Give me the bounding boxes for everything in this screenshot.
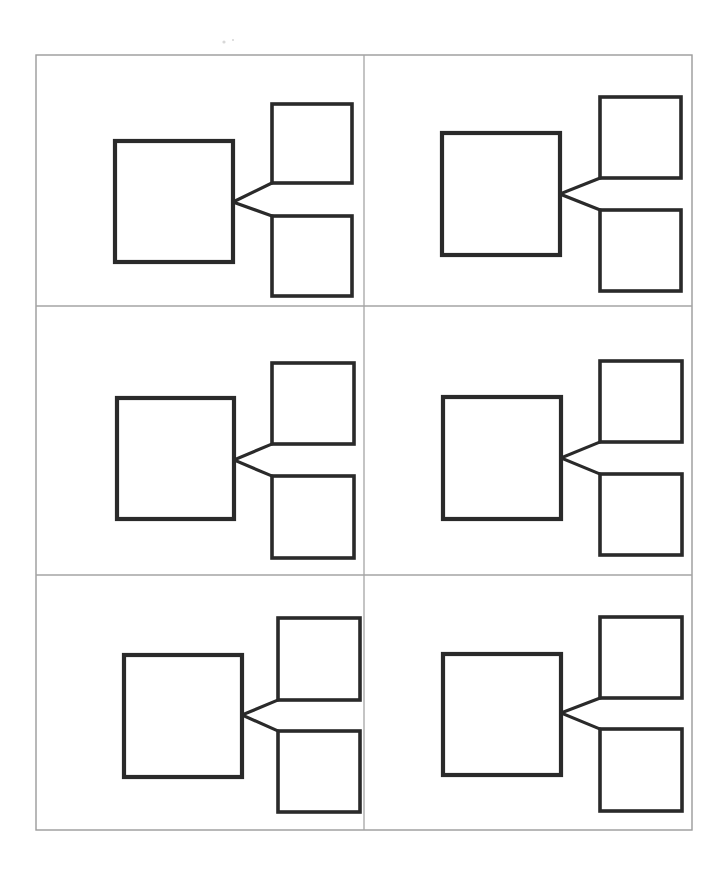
- scan-speck-2: [232, 39, 234, 41]
- cell-1-top-box: [272, 104, 352, 183]
- cell-6-top-box: [600, 617, 682, 698]
- cell-6-bottom-box: [600, 729, 682, 811]
- cell-1-primary-box: [115, 141, 233, 262]
- cell-5-primary-box: [124, 655, 242, 777]
- scanned-page: [0, 0, 726, 873]
- cell-3-bottom-box: [272, 476, 354, 558]
- cell-3-primary-box: [117, 398, 234, 519]
- cell-4-primary-box: [443, 397, 561, 519]
- cell-2-bottom-box: [600, 210, 681, 291]
- cell-3-top-box: [272, 363, 354, 444]
- cell-2-top-box: [600, 97, 681, 178]
- cell-4-top-box: [600, 361, 682, 442]
- cell-1-bottom-box: [272, 216, 352, 296]
- cell-4-bottom-box: [600, 474, 682, 555]
- cell-2-primary-box: [442, 133, 560, 255]
- cell-5-bottom-box: [278, 731, 360, 812]
- scan-speck-1: [222, 40, 225, 43]
- cell-6-primary-box: [443, 654, 561, 775]
- cell-5-top-box: [278, 618, 360, 700]
- diagram-sheet: [0, 0, 726, 873]
